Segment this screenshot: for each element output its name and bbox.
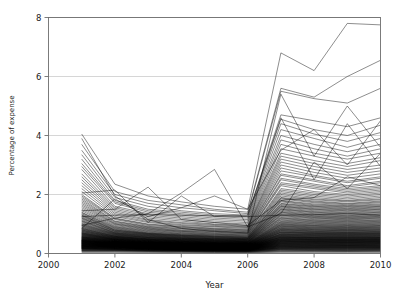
x-tick-label: 2008 bbox=[303, 260, 325, 270]
y-axis-title: Percentage of expense bbox=[8, 95, 16, 175]
y-tick-label: 0 bbox=[36, 249, 41, 259]
x-tick-label: 2002 bbox=[104, 260, 126, 270]
x-tick-label: 2004 bbox=[170, 260, 192, 270]
y-tick-label: 4 bbox=[36, 131, 41, 141]
x-tick-label: 2010 bbox=[370, 260, 392, 270]
x-tick-label: 2000 bbox=[38, 260, 60, 270]
y-tick-label: 8 bbox=[36, 13, 41, 23]
y-tick-label: 2 bbox=[36, 190, 41, 200]
chart-figure: 200020022004200620082010 02468 Year Perc… bbox=[0, 0, 406, 306]
x-tick-label: 2006 bbox=[237, 260, 259, 270]
x-axis-title: Year bbox=[205, 280, 225, 290]
line-chart: 200020022004200620082010 02468 Year Perc… bbox=[0, 0, 406, 306]
y-tick-label: 6 bbox=[36, 72, 41, 82]
